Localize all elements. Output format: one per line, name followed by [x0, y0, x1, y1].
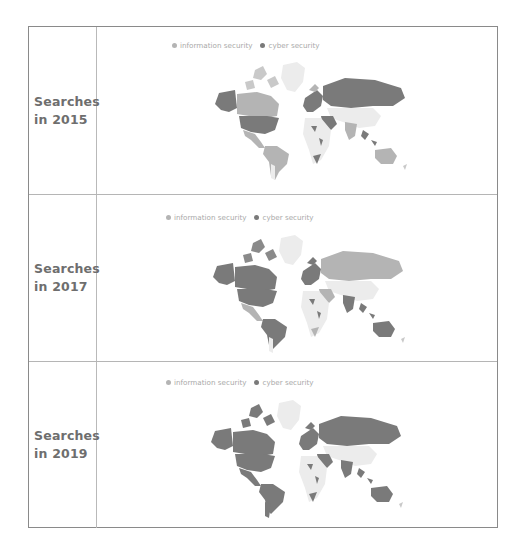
legend-item-cyber[interactable]: cyber security: [260, 41, 319, 50]
row-label: Searches in 2017: [34, 260, 100, 296]
row-label: Searches in 2019: [34, 427, 100, 463]
region-russia: [319, 416, 401, 446]
legend-dot-cyber-icon: [254, 380, 259, 385]
legend-dot-cyber-icon: [260, 43, 265, 48]
region-russia: [323, 78, 405, 108]
region-russia: [321, 251, 403, 281]
legend-dot-info-icon: [172, 43, 177, 48]
world-map-2017: [203, 233, 413, 353]
row-label-line2: in 2015: [34, 111, 100, 129]
row-label-line1: Searches: [34, 93, 100, 111]
row-label-line1: Searches: [34, 427, 100, 445]
legend-item-info[interactable]: information security: [172, 41, 252, 50]
region-india: [345, 122, 357, 140]
map-cell: information security cyber security: [97, 195, 497, 361]
region-australia: [375, 148, 397, 164]
row-label-cell: Searches in 2015: [29, 27, 97, 194]
search-comparison-table: Searches in 2015 information security cy…: [28, 26, 498, 528]
legend-label: information security: [174, 378, 246, 387]
legend-label: information security: [180, 41, 252, 50]
map-cell: information security cyber security: [97, 27, 497, 194]
row-label: Searches in 2015: [34, 93, 100, 129]
legend-label: cyber security: [262, 378, 313, 387]
legend-dot-cyber-icon: [254, 215, 259, 220]
region-europe: [303, 90, 323, 112]
region-canada: [237, 92, 279, 118]
region-australia: [373, 321, 395, 337]
row-2017: Searches in 2017 information security cy…: [29, 194, 497, 361]
row-label-line2: in 2017: [34, 278, 100, 296]
region-alaska: [213, 263, 235, 285]
row-label-line2: in 2019: [34, 445, 100, 463]
legend-item-info[interactable]: information security: [166, 213, 246, 222]
region-canada: [233, 430, 275, 456]
row-2019: Searches in 2019 information security cy…: [29, 361, 497, 528]
legend-label: cyber security: [268, 41, 319, 50]
legend-dot-info-icon: [166, 380, 171, 385]
map-cell: information security cyber security: [97, 362, 497, 528]
region-canada: [235, 265, 277, 291]
region-europe: [301, 263, 321, 285]
region-brazil: [261, 319, 287, 349]
legend-label: cyber security: [262, 213, 313, 222]
row-label-cell: Searches in 2019: [29, 362, 97, 528]
world-map-2019: [201, 398, 411, 518]
row-2015: Searches in 2015 information security cy…: [29, 27, 497, 194]
region-australia: [371, 486, 393, 502]
legend-item-cyber[interactable]: cyber security: [254, 213, 313, 222]
legend-item-cyber[interactable]: cyber security: [254, 378, 313, 387]
region-europe: [299, 428, 319, 450]
region-india: [343, 295, 355, 313]
region-south-america: [259, 484, 285, 514]
legend: information security cyber security: [166, 378, 318, 387]
row-label-line1: Searches: [34, 260, 100, 278]
region-india: [341, 460, 353, 478]
row-label-cell: Searches in 2017: [29, 195, 97, 361]
world-map-2015: [205, 60, 415, 180]
legend: information security cyber security: [166, 213, 318, 222]
legend: information security cyber security: [172, 41, 324, 50]
legend-dot-info-icon: [166, 215, 171, 220]
region-alaska: [215, 90, 237, 112]
legend-item-info[interactable]: information security: [166, 378, 246, 387]
region-south-america: [263, 146, 289, 180]
legend-label: information security: [174, 213, 246, 222]
region-alaska: [211, 428, 233, 450]
